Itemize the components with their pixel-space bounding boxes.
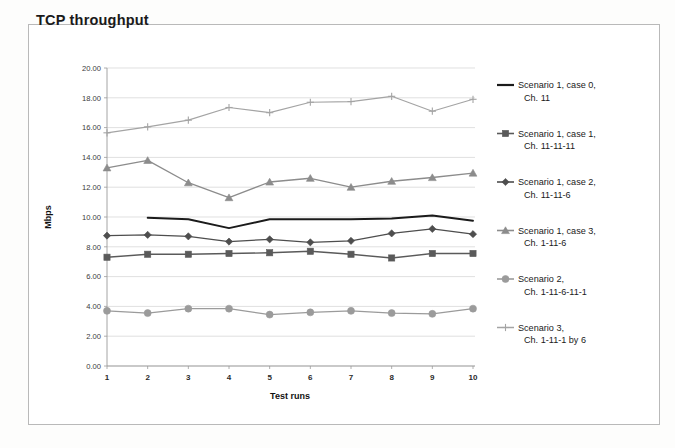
x-axis-title: Test runs — [270, 391, 310, 401]
series-6-marker — [103, 129, 110, 136]
series-3-marker — [103, 232, 110, 239]
series-3-marker — [307, 239, 314, 246]
series-6-marker — [185, 117, 192, 124]
series-3-marker — [144, 231, 151, 238]
series-6 — [103, 93, 476, 137]
series-3-marker — [429, 225, 436, 232]
y-tick-label: 2.00 — [86, 332, 101, 341]
series-2-marker — [226, 250, 232, 256]
series-2 — [104, 248, 476, 261]
series-5-marker — [144, 310, 151, 317]
series-line-1 — [148, 216, 473, 229]
series-3-marker — [185, 233, 192, 240]
legend-label-line2-5: Ch. 1-11-6-11-1 — [524, 287, 587, 297]
y-tick-label: 10.00 — [82, 213, 101, 222]
series-5-marker — [266, 311, 273, 318]
series-line-5 — [107, 309, 473, 315]
series-5-marker — [104, 307, 111, 314]
legend-entry-6[interactable]: Scenario 3,Ch. 1-11-1 by 6 — [497, 323, 586, 345]
series-line-2 — [107, 251, 473, 258]
series-6-marker — [388, 93, 395, 100]
legend-label-line1-1: Scenario 1, case 0, — [518, 80, 596, 90]
series-5-marker — [429, 310, 436, 317]
series-line-3 — [107, 229, 473, 242]
series-5 — [104, 305, 477, 318]
x-tick-label: 9 — [430, 373, 435, 382]
y-tick-label: 6.00 — [86, 272, 101, 281]
y-axis-tick-labels: 0.002.004.006.008.0010.0012.0014.0016.00… — [82, 64, 101, 371]
series-2-marker — [267, 250, 273, 256]
legend-entry-3[interactable]: Scenario 1, case 2,Ch. 11-11-6 — [497, 177, 596, 199]
series-4 — [103, 157, 477, 201]
series-6-marker — [144, 123, 151, 130]
series-2-marker — [389, 255, 395, 261]
axis-titles: Test runsMbps — [43, 205, 310, 401]
y-tick-label: 4.00 — [86, 302, 101, 311]
x-axis-tick-labels: 12345678910 — [105, 366, 478, 382]
legend-label-line2-4: Ch. 1-11-6 — [524, 238, 566, 248]
legend-swatch-marker-2 — [502, 130, 508, 136]
series-3-marker — [225, 238, 232, 245]
series-5-marker — [307, 309, 314, 316]
series-3-marker — [388, 230, 395, 237]
series-3-marker — [266, 236, 273, 243]
legend-label-line2-1: Ch. 11 — [524, 93, 550, 103]
legend-label-line1-3: Scenario 1, case 2, — [518, 177, 596, 187]
series-line-4 — [107, 160, 473, 197]
series-2-marker — [145, 251, 151, 257]
data-series — [103, 93, 477, 318]
series-5-marker — [226, 305, 233, 312]
y-tick-label: 20.00 — [82, 64, 101, 73]
series-2-marker — [104, 254, 110, 260]
x-tick-label: 2 — [145, 373, 150, 382]
legend-swatch-marker-5 — [502, 276, 509, 283]
legend-label-line1-5: Scenario 2, — [518, 274, 564, 284]
legend-entry-2[interactable]: Scenario 1, case 1,Ch. 11-11-11 — [497, 129, 596, 151]
series-2-marker — [470, 250, 476, 256]
legend-swatch-marker-3 — [502, 178, 509, 185]
y-axis-title: Mbps — [43, 205, 53, 229]
x-tick-label: 5 — [267, 373, 272, 382]
series-5-marker — [185, 305, 192, 312]
series-5-marker — [388, 310, 395, 317]
series-2-marker — [307, 248, 313, 254]
x-tick-label: 4 — [227, 373, 232, 382]
chart-legend[interactable]: Scenario 1, case 0,Ch. 11Scenario 1, cas… — [497, 80, 596, 345]
series-6-marker — [469, 96, 476, 103]
x-tick-label: 8 — [389, 373, 394, 382]
series-6-marker — [266, 109, 273, 116]
series-6-marker — [347, 98, 354, 105]
series-3-marker — [469, 231, 476, 238]
legend-label-line1-4: Scenario 1, case 3, — [518, 226, 596, 236]
series-2-marker — [185, 251, 191, 257]
series-5-marker — [470, 305, 477, 312]
x-tick-label: 1 — [105, 373, 110, 382]
legend-label-line1-2: Scenario 1, case 1, — [518, 129, 596, 139]
series-3-marker — [347, 237, 354, 244]
y-tick-label: 8.00 — [86, 243, 101, 252]
legend-swatch-marker-6 — [502, 324, 509, 331]
legend-label-line2-6: Ch. 1-11-1 by 6 — [524, 335, 586, 345]
series-2-marker — [348, 251, 354, 257]
series-6-marker — [225, 104, 232, 111]
legend-entry-4[interactable]: Scenario 1, case 3,Ch. 1-11-6 — [497, 226, 596, 248]
legend-label-line1-6: Scenario 3, — [518, 323, 564, 333]
legend-label-line2-2: Ch. 11-11-11 — [524, 141, 575, 151]
series-6-marker — [307, 99, 314, 106]
series-6-marker — [429, 108, 436, 115]
x-tick-label: 6 — [308, 373, 313, 382]
y-tick-label: 0.00 — [86, 362, 101, 371]
legend-entry-5[interactable]: Scenario 2,Ch. 1-11-6-11-1 — [497, 274, 587, 296]
x-tick-label: 3 — [186, 373, 191, 382]
series-3 — [103, 225, 476, 246]
y-tick-label: 12.00 — [82, 183, 101, 192]
series-5-marker — [348, 307, 355, 314]
x-tick-label: 7 — [349, 373, 354, 382]
y-tick-label: 18.00 — [82, 94, 101, 103]
legend-entry-1[interactable]: Scenario 1, case 0,Ch. 11 — [497, 80, 596, 102]
y-tick-label: 14.00 — [82, 153, 101, 162]
series-2-marker — [429, 250, 435, 256]
series-1 — [148, 216, 473, 229]
series-4-marker — [225, 194, 233, 201]
scanned-page-background: TCP throughput 0.002.004.006.008.0010.00… — [0, 0, 675, 448]
